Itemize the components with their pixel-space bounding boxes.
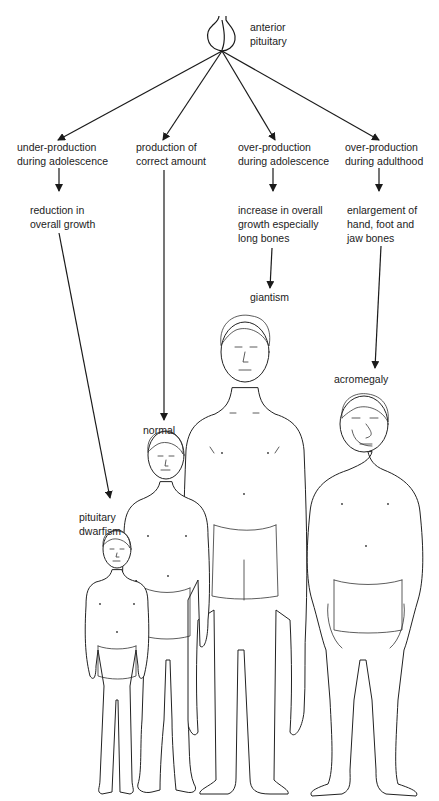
label-result-acromegaly: acromegaly — [334, 372, 388, 386]
label-condition-over-production-adulthood: over-production during adulthood — [345, 140, 423, 168]
label-effect-increased-growth: increase in overall growth especially lo… — [238, 203, 323, 245]
pituitary-gland-icon — [208, 16, 235, 51]
effect-arrows — [59, 168, 379, 191]
branch-arrows — [58, 51, 379, 140]
label-result-giantism: giantism — [250, 290, 289, 304]
figure-acromegaly — [307, 394, 423, 796]
label-result-normal: normal — [143, 423, 175, 437]
label-anterior-pituitary: anterior pituitary — [250, 20, 287, 48]
label-result-pituitary-dwarfism: pituitary dwarfism — [79, 510, 121, 538]
label-condition-correct-amount: production of correct amount — [136, 140, 206, 168]
label-condition-under-production: under-production during adolescence — [17, 140, 108, 168]
label-effect-enlargement: enlargement of hand, foot and jaw bones — [347, 203, 417, 245]
diagram-graphics — [0, 0, 439, 801]
pituitary-growth-diagram: anterior pituitary under-production duri… — [0, 0, 439, 801]
label-effect-reduced-growth: reduction in overall growth — [30, 203, 95, 231]
label-condition-over-production-adolescence: over-production during adolescence — [238, 140, 329, 168]
